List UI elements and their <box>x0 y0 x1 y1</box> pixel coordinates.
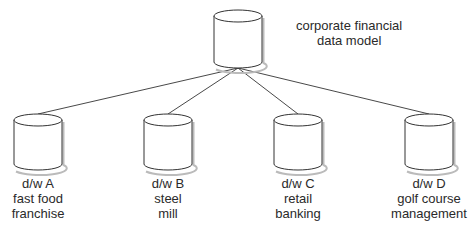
child-d-line-3: management <box>389 206 469 221</box>
root-label: corporate financial data model <box>296 18 402 48</box>
child-c-line-1: d/w C <box>268 176 328 191</box>
child-d-cylinder-icon-body <box>405 120 453 170</box>
child-d-line-2: golf course <box>389 191 469 206</box>
child-b-line-2: steel <box>138 191 198 206</box>
child-b-cylinder-icon-body <box>144 120 192 170</box>
child-a-cylinder-icon-top <box>14 114 62 126</box>
child-b-line-3: mill <box>138 206 198 221</box>
child-d-cylinder-icon-top <box>405 114 453 126</box>
child-a-line-1: d/w A <box>8 176 68 191</box>
child-a-line-2: fast food <box>8 191 68 206</box>
root-label-line-2: data model <box>296 33 402 48</box>
edge-line-b <box>168 68 238 114</box>
child-label-c: d/w C retail banking <box>268 176 328 221</box>
edge-line-a <box>38 68 238 114</box>
root-cylinder-icon-top <box>214 10 262 22</box>
child-c-cylinder-icon-body <box>274 120 322 170</box>
root-label-line-1: corporate financial <box>296 18 402 33</box>
child-c-cylinder-icon-top <box>274 114 322 126</box>
child-b-cylinder-icon-top <box>144 114 192 126</box>
child-label-d: d/w D golf course management <box>389 176 469 221</box>
child-a-line-3: franchise <box>8 206 68 221</box>
child-a-cylinder-icon-body <box>14 120 62 170</box>
child-label-a: d/w A fast food franchise <box>8 176 68 221</box>
edge-line-d <box>238 68 429 114</box>
root-cylinder-icon-body <box>214 16 262 68</box>
child-c-line-3: banking <box>268 206 328 221</box>
child-d-line-1: d/w D <box>389 176 469 191</box>
child-c-line-2: retail <box>268 191 328 206</box>
child-label-b: d/w B steel mill <box>138 176 198 221</box>
child-b-line-1: d/w B <box>138 176 198 191</box>
